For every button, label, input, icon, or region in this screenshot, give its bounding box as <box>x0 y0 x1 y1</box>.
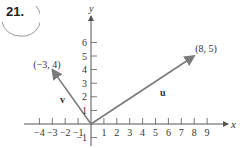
x-tick-label: 1 <box>101 127 106 138</box>
coordinate-plane: xy−4−3−2−1123456789−1123456u(8, 5)v(−3, … <box>0 0 240 148</box>
x-tick-label: −4 <box>34 127 45 138</box>
vector-diagram: 21. xy−4−3−2−1123456789−1123456u(8, 5)v(… <box>0 0 240 148</box>
x-tick-label: 3 <box>127 127 132 138</box>
y-tick-label: 6 <box>82 37 87 48</box>
x-tick-label: 7 <box>179 127 184 138</box>
x-tick-label: −2 <box>60 127 71 138</box>
y-tick-label: 2 <box>82 91 87 102</box>
y-tick-label: 5 <box>82 51 87 62</box>
x-axis-label: x <box>230 118 236 130</box>
y-axis-label: y <box>88 3 94 14</box>
vector-v-endpoint-label: (−3, 4) <box>33 59 60 71</box>
vector-u-label: u <box>160 87 166 98</box>
x-tick-label: 6 <box>166 127 171 138</box>
y-tick-label: 3 <box>82 78 87 89</box>
y-tick-label: 1 <box>82 105 87 116</box>
y-tick-label: −1 <box>76 132 87 143</box>
x-tick-label: 5 <box>153 127 158 138</box>
vector-u-endpoint-label: (8, 5) <box>195 43 217 55</box>
x-tick-label: 2 <box>114 127 119 138</box>
x-tick-label: −3 <box>47 127 58 138</box>
y-tick-label: 4 <box>82 64 87 75</box>
x-tick-label: 4 <box>140 127 145 138</box>
x-tick-label: 8 <box>192 127 197 138</box>
vector-v-label: v <box>60 94 65 105</box>
vector-u <box>91 56 194 124</box>
x-tick-label: 9 <box>205 127 210 138</box>
